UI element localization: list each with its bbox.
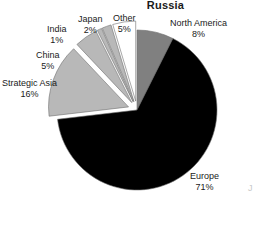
pie-slice-label-name: North America <box>170 18 227 29</box>
pie-slice-label: Strategic Asia16% <box>2 78 57 99</box>
pie-slice-label-value: 5% <box>113 24 136 35</box>
pie-slice-label: North America8% <box>170 18 227 39</box>
pie-slice-label-name: Strategic Asia <box>2 78 57 89</box>
pie-slice-label-value: 8% <box>170 29 227 40</box>
pie-slice-label-name: China <box>36 50 60 61</box>
pie-slice-label-name: Japan <box>78 14 103 25</box>
pie-slice-label: China5% <box>36 50 60 71</box>
pie-slice-label: Japan2% <box>78 14 103 35</box>
pie-slice-label-value: 71% <box>190 182 219 193</box>
pie-slice-label-name: Other <box>113 13 136 24</box>
pie-slice-label-value: 1% <box>47 35 67 46</box>
pie-slice-label: Europe71% <box>190 171 219 192</box>
pie-slice-group <box>49 21 217 190</box>
pie-slice-label-value: 5% <box>36 61 60 72</box>
pie-slice-label: India1% <box>47 24 67 45</box>
pie-slice-label: Other5% <box>113 13 136 34</box>
pie-slice-label-name: Europe <box>190 171 219 182</box>
pie-chart: Russia North America8%Europe71%Strategic… <box>0 0 261 226</box>
pie-slice-label-value: 16% <box>2 89 57 100</box>
pie-slice-label-value: 2% <box>78 25 103 36</box>
pie-slice-label-name: India <box>47 24 67 35</box>
clipped-neighbor-text: J <box>248 183 253 193</box>
